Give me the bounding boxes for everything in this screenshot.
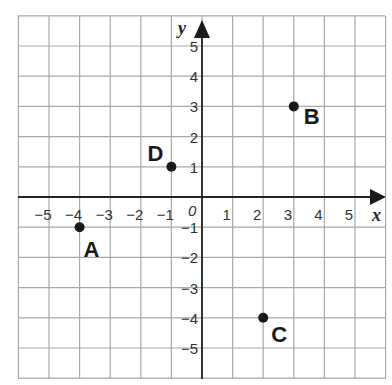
point-c — [258, 313, 268, 323]
x-tick-label: 2 — [253, 206, 261, 223]
x-tick-label: 1 — [222, 206, 230, 223]
point-b — [289, 101, 299, 111]
x-tick-label: −1 — [157, 206, 174, 223]
x-axis-label: x — [371, 205, 381, 225]
y-tick-label: 2 — [190, 129, 198, 146]
y-tick-label: −2 — [181, 249, 198, 266]
y-tick-label: −4 — [181, 310, 198, 327]
origin-label: 0 — [188, 202, 197, 219]
point-d — [166, 162, 176, 172]
y-tick-label: −1 — [181, 219, 198, 236]
y-tick-label: −5 — [181, 340, 198, 357]
point-a — [75, 222, 85, 232]
y-tick-label: 4 — [190, 68, 198, 85]
y-axis-arrow-icon — [194, 20, 210, 38]
axes: xy0 — [18, 18, 386, 379]
y-tick-label: −3 — [181, 280, 198, 297]
x-axis-arrow-icon — [370, 189, 386, 205]
x-tick-label: −4 — [65, 206, 82, 223]
point-label-d: D — [147, 141, 163, 166]
point-label-c: C — [271, 322, 287, 347]
y-tick-label: 3 — [190, 98, 198, 115]
x-tick-label: 4 — [314, 206, 322, 223]
x-tick-label: −2 — [126, 206, 143, 223]
y-tick-label: 1 — [190, 159, 198, 176]
point-label-b: B — [304, 104, 320, 129]
x-tick-label: −5 — [34, 206, 51, 223]
y-axis-label: y — [176, 18, 187, 38]
point-label-a: A — [84, 237, 100, 262]
x-tick-label: 5 — [345, 206, 353, 223]
x-tick-label: 3 — [284, 206, 292, 223]
coordinate-plane: xy0 −5−4−3−2−112345 54321−1−2−3−4−5 ABCD — [0, 0, 392, 385]
y-tick-label: 5 — [190, 38, 198, 55]
x-tick-label: −3 — [96, 206, 113, 223]
